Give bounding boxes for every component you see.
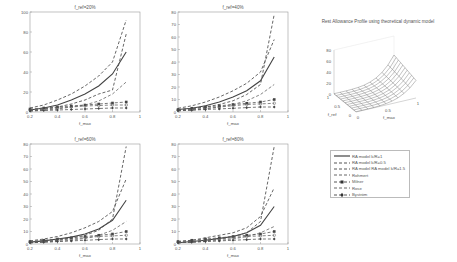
line-chart: f_ref=40%010203040506070800.20.40.60.81f…: [148, 0, 298, 130]
y-tick-label: 60: [171, 35, 176, 40]
legend-label: Milner: [352, 179, 363, 184]
y-tick-label: 70: [171, 154, 176, 159]
legend-label: Rohmert: [352, 173, 368, 178]
x-tick-label: 0.2: [27, 114, 33, 119]
legend-swatch-icon: [334, 185, 350, 191]
legend-label: Rose: [352, 186, 362, 191]
y-tick-label: 20: [23, 217, 28, 222]
legend-swatch-icon: [334, 172, 350, 178]
x-tick-label: 0.6: [230, 114, 236, 119]
y-tick-label: 70: [171, 22, 176, 27]
x-tick-label: 1: [287, 246, 290, 251]
x-axis-label: f_max: [383, 115, 396, 120]
x-tick-label: 0.4: [203, 246, 209, 251]
x-axis-label: f_max: [79, 121, 92, 126]
y-tick-label: 30: [171, 204, 176, 209]
y-tick-label: 40: [23, 70, 28, 75]
y-tick-label: 60: [23, 50, 28, 55]
y-tick-label: 30: [23, 204, 28, 209]
legend-item: Byström: [334, 191, 406, 197]
x-tick-label: 0.6: [82, 114, 88, 119]
z-tick-label: 0: [329, 92, 332, 97]
y-tick-label: 0.5: [334, 104, 340, 109]
chart-fref-60: f_ref=60%010203040506070800.20.40.60.81f…: [0, 132, 150, 262]
x-axis-label: f_max: [227, 253, 240, 258]
legend-label: RA model RA model k/R=1.5: [352, 166, 405, 171]
y-tick-label: 80: [23, 142, 28, 147]
chart-title: f_ref=40%: [222, 5, 243, 10]
x-axis-label: f_max: [227, 121, 240, 126]
x-tick-label: 0.8: [110, 114, 116, 119]
y-tick-label: 60: [171, 167, 176, 172]
legend-item: RA model RA model k/R=1.5: [334, 166, 406, 172]
y-tick-label: 50: [171, 47, 176, 52]
y-tick-label: 0: [349, 113, 352, 118]
y-tick-label: 80: [171, 10, 176, 15]
z-tick-label: 20: [326, 81, 331, 86]
x-tick-label: 1: [287, 114, 290, 119]
x-tick-label: 1: [139, 114, 142, 119]
y-tick-label: 40: [23, 192, 28, 197]
z-tick-label: 80: [326, 48, 331, 53]
x-tick-label: 0.4: [55, 114, 61, 119]
y-tick-label: 40: [171, 192, 176, 197]
legend-swatch-icon: [334, 160, 350, 166]
y-tick-label: 10: [171, 229, 176, 234]
legend-label: RA model k/R=0.5: [352, 160, 386, 165]
y-tick-label: 20: [171, 217, 176, 222]
y-tick-label: 10: [23, 229, 28, 234]
surface-plot: Rest Allowance Profile using theoretical…: [298, 0, 457, 135]
legend: RA model k/R=1RA model k/R=0.5RA model R…: [330, 150, 410, 198]
x-tick-label: 1: [139, 246, 142, 251]
legend-label: RA model k/R=1: [352, 154, 382, 159]
plot-area: [30, 144, 140, 244]
legend-swatch-icon: [334, 192, 350, 198]
legend-swatch-icon: [334, 166, 350, 172]
y-tick-label: 20: [23, 90, 28, 95]
x-tick-label: 0.6: [230, 246, 236, 251]
line-chart: f_ref=80%010203040506070800.20.40.60.81f…: [148, 132, 298, 262]
chart-title: f_ref=20%: [74, 5, 95, 10]
legend-swatch-icon: [334, 153, 350, 159]
chart-title: f_ref=60%: [74, 137, 95, 142]
y-tick-label: 80: [171, 142, 176, 147]
x-tick-label: 0.4: [203, 114, 209, 119]
chart-fref-80: f_ref=80%010203040506070800.20.40.60.81f…: [148, 132, 298, 262]
chart-fref-20: f_ref=20%0204060801000.20.40.60.81f_max: [0, 0, 150, 130]
x-tick-label: 0.2: [175, 246, 181, 251]
line-chart: f_ref=60%010203040506070800.20.40.60.81f…: [0, 132, 150, 262]
x-tick-label: 0.8: [258, 114, 264, 119]
x-tick-label: 0.6: [82, 246, 88, 251]
y-axis-label: f_ref: [328, 112, 338, 117]
x-tick-label: 0.2: [175, 114, 181, 119]
y-tick-label: 50: [23, 179, 28, 184]
z-tick-label: 60: [326, 59, 331, 64]
y-tick-label: 20: [171, 85, 176, 90]
y-tick-label: 70: [23, 154, 28, 159]
x-tick-label: 1: [417, 101, 420, 106]
y-tick-label: 50: [171, 179, 176, 184]
x-axis-label: f_max: [79, 253, 92, 258]
x-tick-label: 0.8: [258, 246, 264, 251]
z-tick-label: 40: [326, 70, 331, 75]
x-tick-label: 0.5: [385, 108, 391, 113]
legend-label: Byström: [352, 192, 367, 197]
surface-chart: Rest Allowance Profile using theoretical…: [298, 0, 457, 135]
legend-swatch-icon: [334, 179, 350, 185]
y-tick-label: 10: [171, 97, 176, 102]
surface-title: Rest Allowance Profile using theoretical…: [322, 19, 435, 24]
y-tick-label: 40: [171, 60, 176, 65]
chart-fref-40: f_ref=40%010203040506070800.20.40.60.81f…: [148, 0, 298, 130]
y-tick-label: 100: [21, 10, 29, 15]
x-tick-label: 0.2: [27, 246, 33, 251]
x-tick-label: 0.4: [55, 246, 61, 251]
x-tick-label: 0: [357, 115, 360, 120]
y-tick-label: 30: [171, 72, 176, 77]
line-chart: f_ref=20%0204060801000.20.40.60.81f_max: [0, 0, 150, 130]
y-tick-label: 80: [23, 30, 28, 35]
x-tick-label: 0.8: [110, 246, 116, 251]
y-tick-label: 60: [23, 167, 28, 172]
chart-title: f_ref=80%: [222, 137, 243, 142]
